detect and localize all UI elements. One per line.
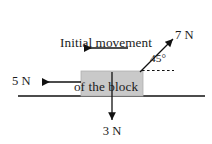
caption-initial-movement: Initial movement of the block [0,6,212,124]
label-force-5n: 5 N [12,74,31,88]
label-force-7n: 7 N [175,28,194,42]
force-diagram: Initial movement of the block 7 N 5 N 3 … [0,0,212,144]
label-angle-45: 45° [150,52,166,65]
caption-line-2: of the block [0,80,212,95]
label-force-3n: 3 N [0,124,212,138]
